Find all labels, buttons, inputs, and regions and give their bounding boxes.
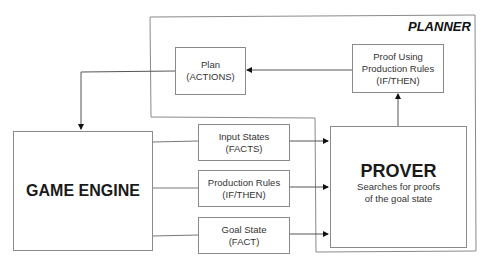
production-rules-sublabel: (IF/THEN) — [222, 189, 265, 201]
goal-state-box: Goal State (FACT) — [198, 217, 290, 254]
goal-state-label: Goal State — [222, 224, 267, 236]
game-engine-title: GAME ENGINE — [26, 182, 140, 200]
proof-label-2: Production Rules — [362, 63, 434, 75]
prover-title: PROVER — [360, 161, 436, 181]
prover-desc-2: of the goal state — [365, 193, 433, 205]
plan-box: Plan (ACTIONS) — [175, 47, 246, 95]
prover-box: PROVER Searches for proofs of the goal s… — [330, 126, 467, 248]
proof-label-3: (IF/THEN) — [376, 75, 419, 87]
planner-title: PLANNER — [408, 19, 471, 34]
goal-state-sublabel: (FACT) — [229, 236, 260, 248]
input-states-label: Input States — [219, 131, 270, 143]
production-rules-label: Production Rules — [208, 177, 280, 189]
game-engine-box: GAME ENGINE — [13, 131, 153, 251]
prover-desc-1: Searches for proofs — [357, 181, 440, 193]
proof-box: Proof Using Production Rules (IF/THEN) — [352, 44, 444, 93]
input-states-sublabel: (FACTS) — [226, 143, 263, 155]
plan-label: Plan — [201, 59, 220, 71]
production-rules-box: Production Rules (IF/THEN) — [198, 170, 290, 207]
proof-label-1: Proof Using — [373, 51, 423, 63]
input-states-box: Input States (FACTS) — [198, 124, 290, 161]
plan-sublabel: (ACTIONS) — [186, 71, 235, 83]
